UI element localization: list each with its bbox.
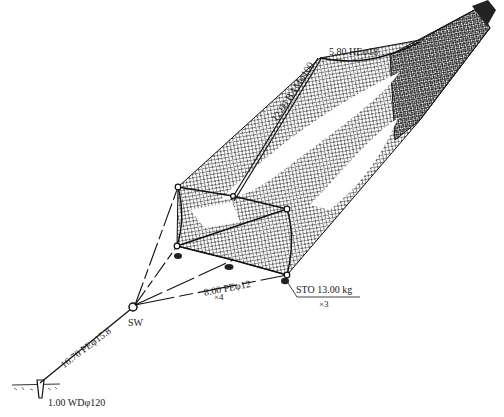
anchor-stake-label: 1.00 WDφ120 <box>48 398 105 408</box>
sinker-count: ×3 <box>319 300 329 309</box>
net-diagram: 12.00 BAMφ100 5.80 HEφ18 8.00 PEφ12 ×4 S… <box>0 0 504 417</box>
head-line-label: 5.80 HEφ18 <box>329 47 378 57</box>
seabed <box>12 384 60 390</box>
codend <box>390 8 490 140</box>
swivel-label: SW <box>128 318 143 328</box>
sinker-label: STO 13.00 kg <box>296 285 352 295</box>
bridle-count: ×4 <box>214 293 224 302</box>
